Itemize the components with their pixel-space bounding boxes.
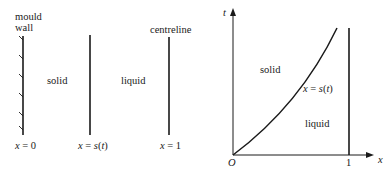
x-equals-zero-label: x = 0 — [14, 140, 36, 151]
curve-label: x = s(t) — [302, 83, 333, 95]
x-tick-one-label: 1 — [346, 157, 351, 168]
t-axis-label: t — [223, 7, 227, 18]
centreline-label: centreline — [150, 24, 192, 35]
x-axis-arrow-icon — [366, 152, 374, 158]
x-t-plane-panel: t x O 1 solid liquid x = s(t) — [223, 7, 383, 168]
mould-wall-label-line2: wall — [15, 22, 33, 33]
t-axis-arrow-icon — [230, 8, 236, 16]
solid-region-label-plot: solid — [260, 64, 281, 75]
liquid-region-label-plot: liquid — [305, 118, 330, 129]
x-equals-one-label: x = 1 — [159, 140, 181, 151]
x-equals-s-of-t-label: x = s(t) — [77, 140, 108, 152]
solid-region-label: solid — [47, 75, 68, 86]
solidification-diagram: mould wall centreline solid liquid x = 0… — [0, 0, 388, 173]
x-axis-label: x — [377, 154, 383, 165]
liquid-region-label: liquid — [121, 75, 146, 86]
physical-setup-panel: mould wall centreline solid liquid x = 0… — [14, 11, 192, 152]
mould-wall-label-line1: mould — [15, 11, 43, 22]
origin-label: O — [228, 157, 236, 168]
